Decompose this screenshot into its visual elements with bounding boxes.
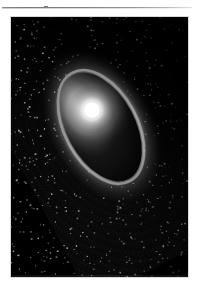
bright-core (50, 68, 135, 153)
horizontal-rule-shadow (2, 8, 190, 9)
figure-bottom-edge (11, 275, 188, 277)
document-page (0, 0, 198, 289)
figure-frame (11, 17, 188, 277)
figure-canvas (11, 17, 188, 277)
top-rule-container (0, 6, 198, 9)
